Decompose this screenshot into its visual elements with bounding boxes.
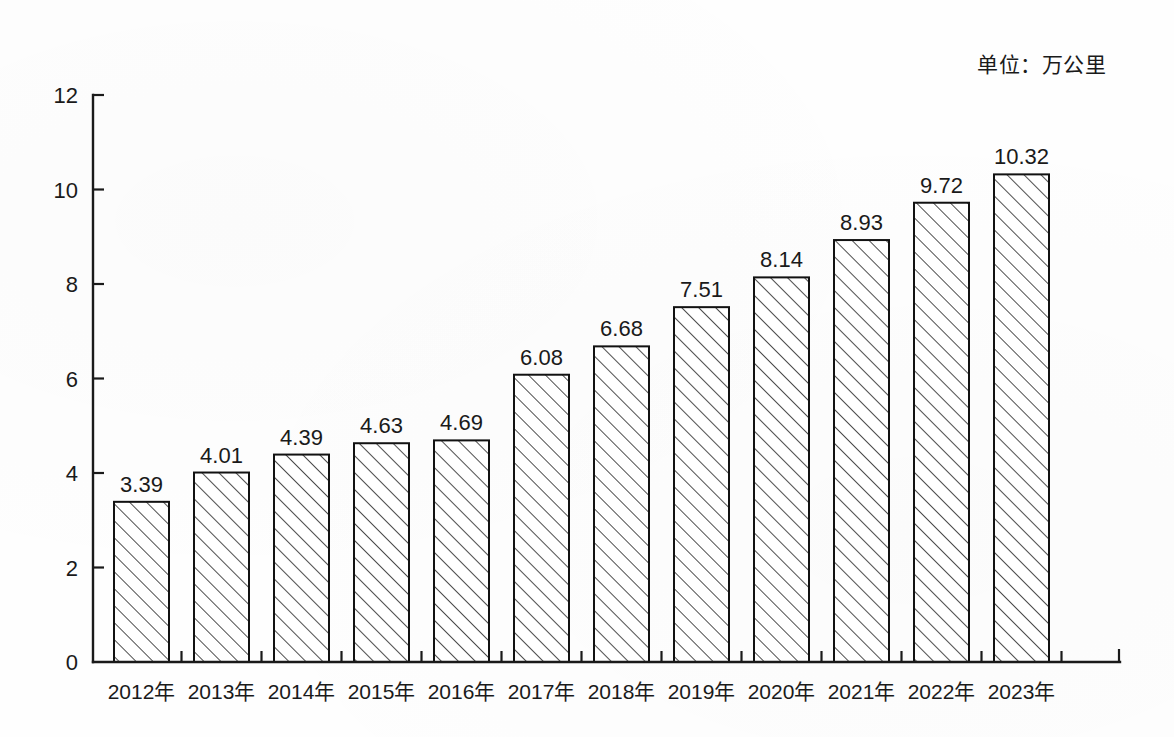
y-axis-tick-label: 0 (66, 650, 78, 675)
bar-value-label: 10.32 (994, 144, 1049, 169)
bar (114, 502, 169, 662)
x-axis-category-label: 2017年 (508, 680, 576, 703)
chart-plot-area: 3.394.014.394.634.696.086.687.518.148.93… (0, 0, 1174, 737)
bar (194, 473, 249, 662)
bar-value-label: 8.93 (840, 210, 883, 235)
x-axis-category-label: 2021年 (828, 680, 896, 703)
x-axis-category-label: 2016年 (428, 680, 496, 703)
bar (994, 174, 1049, 662)
bar-value-label: 6.68 (600, 316, 643, 341)
x-axis-category-label: 2020年 (748, 680, 816, 703)
bar-value-label: 8.14 (760, 247, 803, 272)
bar (274, 455, 329, 662)
bar-value-label: 7.51 (680, 277, 723, 302)
bar (834, 240, 889, 662)
x-axis-category-label: 2023年 (988, 680, 1056, 703)
x-axis-category-label: 2013年 (188, 680, 256, 703)
x-axis-category-label: 2018年 (588, 680, 656, 703)
bar-value-label: 4.69 (440, 410, 483, 435)
x-axis-category-label: 2014年 (268, 680, 336, 703)
bar-value-label: 9.72 (920, 173, 963, 198)
bar (434, 440, 489, 662)
y-axis-tick-label: 10 (54, 178, 78, 203)
bar (354, 443, 409, 662)
bars-group (114, 174, 1049, 662)
x-axis-category-label: 2015年 (348, 680, 416, 703)
bar-value-label: 6.08 (520, 345, 563, 370)
bar-value-label: 4.39 (280, 425, 323, 450)
bar (914, 203, 969, 662)
bar-value-label: 4.01 (200, 443, 243, 468)
bar-value-label: 4.63 (360, 413, 403, 438)
x-axis-category-label: 2012年 (108, 680, 176, 703)
y-axis-tick-label: 12 (54, 83, 78, 108)
bar-chart-figure: 单位：万公里 3.394.014.394.634.696.086.687.518… (0, 0, 1174, 737)
category-labels-group: 2012年2013年2014年2015年2016年2017年2018年2019年… (108, 680, 1056, 703)
y-axis-tick-label: 6 (66, 367, 78, 392)
bar-value-label: 3.39 (120, 472, 163, 497)
bar (754, 277, 809, 662)
bar (594, 346, 649, 662)
x-axis-category-label: 2019年 (668, 680, 736, 703)
value-labels-group: 3.394.014.394.634.696.086.687.518.148.93… (120, 144, 1049, 496)
y-axis-tick-label: 4 (66, 461, 78, 486)
bar (514, 375, 569, 662)
x-axis-category-label: 2022年 (908, 680, 976, 703)
y-axis: 024681012 (54, 83, 104, 675)
y-axis-tick-label: 8 (66, 272, 78, 297)
y-axis-tick-label: 2 (66, 556, 78, 581)
bar (674, 307, 729, 662)
